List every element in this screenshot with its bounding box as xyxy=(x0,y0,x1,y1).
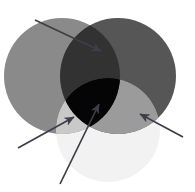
venn-diagram-canvas xyxy=(0,0,195,192)
venn-diagram-figure xyxy=(0,0,195,192)
